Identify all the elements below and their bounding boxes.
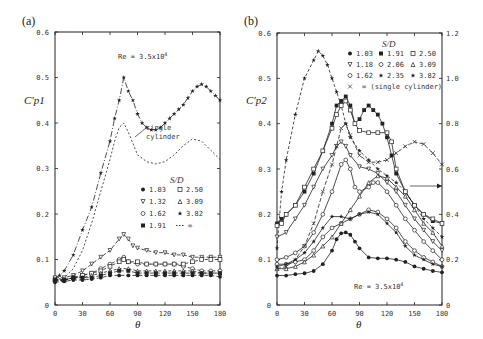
legend-item-label: 1.32 bbox=[149, 198, 166, 206]
legend-item-label: 3.09 bbox=[186, 198, 203, 206]
legend-item-label: 1.03 bbox=[149, 186, 166, 194]
panel-a-ticks: 030609012015018000.10.20.30.40.50.6 bbox=[36, 29, 226, 319]
right-axis-arrowhead-icon bbox=[437, 184, 442, 189]
y-tick-label: 0.6 bbox=[258, 30, 271, 38]
y-tick-label: 0.5 bbox=[36, 74, 49, 82]
y-tick-label: 0.4 bbox=[258, 120, 271, 128]
x-tick-label: 0 bbox=[275, 310, 279, 318]
series-markers bbox=[275, 208, 444, 268]
single-cylinder-label-2: cylinder bbox=[146, 133, 180, 141]
figure: (a) 030609012015018000.10.20.30.40.50.6 … bbox=[0, 0, 483, 339]
legend-single-cylinder: ∞ (single cylinder) bbox=[362, 83, 442, 91]
series-markers bbox=[53, 274, 222, 285]
y-right-tick-label: 0.2 bbox=[446, 256, 459, 264]
y-tick-label: 0.2 bbox=[36, 211, 49, 219]
panel-b-legend: S/D 1.031.912.501.182.063.091.622.353.82… bbox=[348, 39, 442, 91]
legend-item-label: 2.50 bbox=[419, 50, 436, 58]
panel-b-legend-title: S/D bbox=[382, 39, 396, 49]
legend-item-label: 1.91 bbox=[387, 50, 404, 58]
single-cylinder-pointer bbox=[135, 128, 146, 137]
legend-item-label: 1.91 bbox=[149, 222, 166, 230]
panel-a-legend: S/D 1.032.501.323.091.623.821.91∞ bbox=[141, 175, 203, 230]
series-markers bbox=[275, 95, 444, 226]
legend-item-label: 3.09 bbox=[419, 61, 436, 69]
panel-a: (a) 030609012015018000.10.20.30.40.50.6 … bbox=[22, 14, 226, 330]
y-right-tick-label: 0.6 bbox=[446, 166, 459, 174]
y-tick-label: 0.3 bbox=[36, 165, 49, 173]
x-tick-label: 150 bbox=[408, 310, 421, 318]
legend-item-label: 2.06 bbox=[387, 61, 404, 69]
legend-item-label: 1.18 bbox=[356, 61, 373, 69]
panel-a-reynolds: Re = 3.5x104 bbox=[118, 51, 167, 61]
series-line bbox=[277, 97, 442, 224]
series-line bbox=[277, 210, 442, 267]
panel-a-xlabel: θ bbox=[135, 318, 141, 330]
y-right-tick-label: 1.2 bbox=[446, 30, 459, 38]
x-tick-label: 60 bbox=[106, 310, 114, 318]
panel-b-reynolds: Re = 3.5x104 bbox=[354, 281, 403, 291]
y-right-tick-label: 0.4 bbox=[446, 211, 459, 219]
legend-item-label: 1.62 bbox=[149, 210, 166, 218]
panel-a-series bbox=[53, 75, 223, 284]
single-cylinder-label-1: single bbox=[146, 124, 171, 132]
x-tick-label: 90 bbox=[133, 310, 141, 318]
x-tick-label: 0 bbox=[53, 310, 57, 318]
legend-item-label: 2.35 bbox=[387, 72, 404, 80]
y-tick-label: 0.1 bbox=[36, 256, 49, 264]
x-tick-label: 90 bbox=[355, 310, 363, 318]
legend-item-label: 1.03 bbox=[356, 50, 373, 58]
y-tick-label: 0.1 bbox=[258, 256, 271, 264]
y-tick-label: 0.6 bbox=[36, 29, 49, 37]
y-tick-label: 0.4 bbox=[36, 120, 49, 128]
legend-item-label: ∞ bbox=[188, 222, 193, 230]
panel-b-xlabel: θ bbox=[356, 318, 362, 330]
x-tick-label: 180 bbox=[436, 310, 449, 318]
series-line bbox=[277, 212, 442, 266]
x-tick-label: 120 bbox=[159, 310, 172, 318]
x-tick-label: 30 bbox=[300, 310, 308, 318]
panel-b: (b) 030609012015018000.10.20.30.40.50.60… bbox=[244, 14, 459, 330]
x-tick-label: 120 bbox=[381, 310, 394, 318]
panel-b-label: (b) bbox=[244, 14, 258, 28]
y-tick-label: 0.5 bbox=[258, 75, 271, 83]
legend-item-label: 3.82 bbox=[186, 210, 203, 218]
x-tick-label: 60 bbox=[328, 310, 336, 318]
x-tick-label: 180 bbox=[214, 310, 227, 318]
y-tick-label: 0.2 bbox=[258, 211, 271, 219]
panel-a-legend-title: S/D bbox=[170, 175, 184, 185]
y-tick-label: 0 bbox=[267, 302, 271, 310]
y-tick-label: 0 bbox=[45, 302, 49, 310]
y-right-tick-label: 0.8 bbox=[446, 120, 459, 128]
legend-item-label: 1.62 bbox=[356, 72, 373, 80]
series-line bbox=[277, 233, 442, 276]
series-markers bbox=[275, 210, 445, 269]
panel-a-label: (a) bbox=[22, 14, 35, 28]
x-tick-label: 150 bbox=[186, 310, 199, 318]
legend-item-label: 2.50 bbox=[186, 186, 203, 194]
y-right-tick-label: 1.0 bbox=[446, 75, 459, 83]
y-tick-label: 0.3 bbox=[258, 166, 271, 174]
y-right-tick-label: 0 bbox=[446, 302, 450, 310]
legend-item-label: 3.82 bbox=[419, 72, 436, 80]
panel-a-ylabel: C'p1 bbox=[24, 94, 45, 106]
x-tick-label: 30 bbox=[78, 310, 86, 318]
panel-b-ylabel: C'p2 bbox=[246, 94, 267, 106]
